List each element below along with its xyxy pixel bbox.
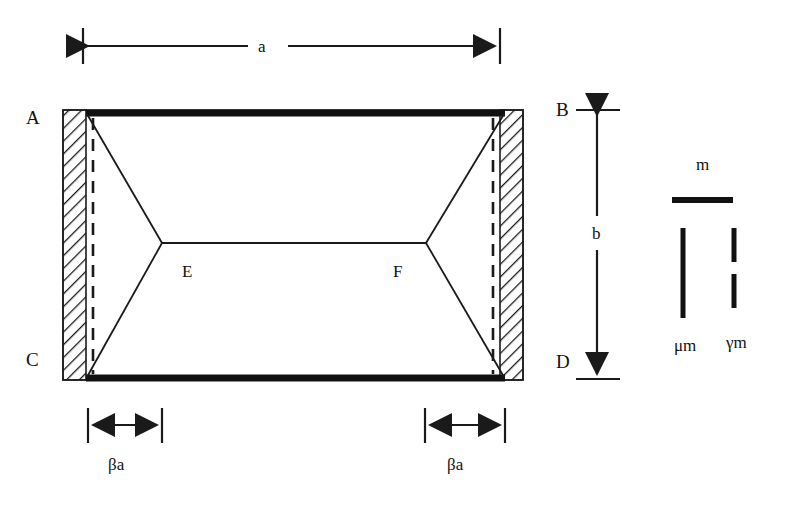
corner-label-c: C	[26, 350, 39, 369]
yield-line-pattern-group	[87, 114, 504, 377]
node-label-e: E	[182, 263, 192, 280]
dimension-label-a: a	[258, 38, 266, 55]
plate-outline	[63, 110, 523, 380]
dimension-beta-a-right-group	[425, 408, 505, 443]
hatched-bands-group	[63, 110, 523, 380]
hatched-band-right	[500, 110, 523, 380]
dashed-internal-lines-group	[93, 118, 493, 374]
node-label-f: F	[393, 263, 402, 280]
thick-moment-bars-group	[86, 113, 505, 378]
diagram-canvas: A B C D E F a b βa βa m μm γm	[0, 0, 785, 515]
dimension-b-group	[576, 110, 620, 379]
dimension-label-beta-a-right: βa	[447, 456, 463, 473]
diagram-vector-layer	[0, 0, 785, 515]
corner-label-d: D	[556, 352, 570, 371]
dimension-label-b: b	[592, 225, 601, 242]
legend-label-gamma-m: γm	[726, 334, 747, 351]
corner-label-b: B	[556, 100, 569, 119]
dimension-a-group	[83, 28, 500, 64]
dimension-label-beta-a-left: βa	[108, 456, 124, 473]
yield-line-a-to-e	[87, 114, 162, 243]
legend-symbols-group	[672, 200, 734, 318]
corner-label-a: A	[26, 108, 40, 127]
legend-label-mu-m: μm	[674, 337, 696, 354]
dimension-beta-a-left-group	[88, 408, 162, 443]
legend-label-m: m	[696, 156, 709, 173]
hatched-band-left	[63, 110, 86, 380]
yield-line-c-to-e	[87, 243, 162, 377]
